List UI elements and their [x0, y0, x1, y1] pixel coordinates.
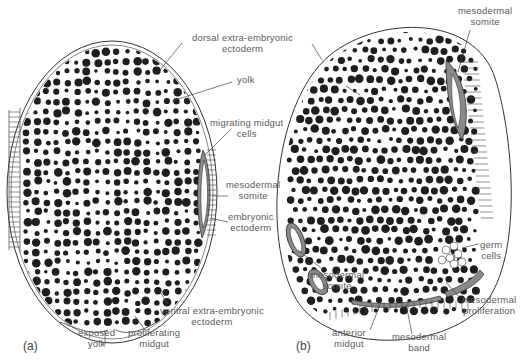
label-germ-cells: germ cells — [480, 240, 502, 261]
label-line: mesodermal — [310, 270, 364, 281]
label-line: germ — [480, 240, 502, 251]
label-line: somite — [310, 281, 364, 292]
panel-label-b: (b) — [296, 339, 311, 353]
label-line: mesodermal — [226, 180, 280, 191]
label-dorsal-extra-embryonic-ectoderm: dorsal extra-embryonic ectoderm — [192, 33, 293, 54]
label-line: dorsal extra-embryonic — [192, 33, 293, 44]
label-line: midgut — [128, 339, 180, 350]
label-line: somite — [458, 17, 512, 28]
label-mesodermal-somite-a: mesodermal somite — [226, 180, 280, 201]
label-line: ventral extra-embryonic — [160, 306, 264, 317]
label-line: exposed — [78, 328, 115, 339]
label-line: mesodermal — [458, 6, 512, 17]
label-line: cells — [210, 129, 283, 140]
label-exposed-yolk: exposed yolk — [78, 328, 115, 349]
panel-label-a: (a) — [23, 339, 38, 353]
label-line: embryonic — [228, 212, 274, 223]
label-migrating-midgut-cells: migrating midgut cells — [210, 118, 283, 139]
label-line: midgut — [332, 339, 366, 350]
label-proliferating-midgut: proliferating midgut — [128, 328, 180, 349]
label-line: cells — [480, 251, 502, 262]
label-line: ectoderm — [228, 223, 274, 234]
label-embryonic-ectoderm: embryonic ectoderm — [228, 212, 274, 233]
embryo-b — [277, 25, 511, 341]
label-yolk: yolk — [237, 75, 255, 86]
label-line: ectoderm — [192, 44, 293, 55]
label-mesodermal-proliferation: mesodermal proliferation — [462, 295, 516, 316]
embryo-a — [7, 41, 232, 345]
label-mesodermal-somite-b-left: mesodermal somite — [310, 270, 364, 291]
label-line: proliferating — [128, 328, 180, 339]
label-line: mesodermal — [392, 332, 446, 343]
label-line: band — [392, 343, 446, 354]
label-ventral-extra-embryonic-ectoderm: ventral extra-embryonic ectoderm — [160, 306, 264, 327]
label-mesodermal-band: mesodermal band — [392, 332, 446, 353]
label-line: ectoderm — [160, 317, 264, 328]
label-line: proliferation — [462, 306, 516, 317]
embryo-cross-section-figure: dorsal extra-embryonic ectoderm yolk mig… — [0, 0, 531, 360]
label-line: migrating midgut — [210, 118, 283, 129]
label-mesodermal-somite-b-top: mesodermal somite — [458, 6, 512, 27]
label-line: mesodermal — [462, 295, 516, 306]
label-line: anterior — [332, 328, 366, 339]
label-anterior-midgut: anterior midgut — [332, 328, 366, 349]
label-line: yolk — [78, 339, 115, 350]
label-line: somite — [226, 191, 280, 202]
